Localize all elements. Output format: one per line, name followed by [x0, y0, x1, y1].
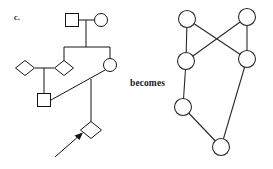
graph-node-n3	[178, 53, 195, 70]
graph-node-n5	[175, 99, 192, 116]
graph-node-n2	[239, 9, 256, 26]
pedigree-diamond-proband	[81, 122, 102, 139]
graph-diagram	[175, 9, 256, 156]
proband-arrow-shaft	[55, 135, 80, 157]
graph-edge-n4-n6	[221, 59, 247, 147]
pedigree-circle-I-2	[95, 14, 108, 27]
pedigree-square-I-1	[66, 14, 79, 27]
pedigree-diamond-II-1	[16, 61, 35, 76]
pedigree-square-III-1	[38, 94, 51, 107]
graph-node-n1	[179, 11, 196, 28]
graph-edge-n2-n3	[186, 17, 247, 61]
pedigree-diagram	[16, 14, 117, 158]
figure-drawing	[0, 0, 273, 169]
graph-node-n6	[213, 139, 230, 156]
graph-node-n4	[239, 51, 256, 68]
pedigree-circle-II-3	[104, 59, 117, 72]
pedigree-diamond-II-2	[55, 61, 74, 76]
proband-arrow-icon	[55, 133, 83, 158]
figure-panel-c: c. becomes	[0, 0, 273, 169]
diagonal-line-II-3-to-III-1	[51, 70, 106, 100]
